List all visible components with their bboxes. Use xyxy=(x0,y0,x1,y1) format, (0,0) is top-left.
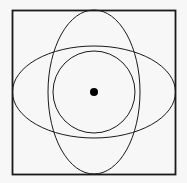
geometric-diagram xyxy=(0,0,187,183)
center-dot xyxy=(90,88,98,96)
